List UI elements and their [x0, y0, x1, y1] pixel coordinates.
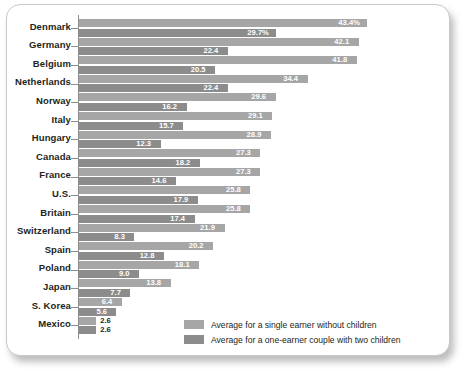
bar-value-label: 16.2 — [162, 103, 177, 111]
bar-value-label: 29.7% — [247, 29, 269, 37]
bar — [79, 205, 250, 213]
axis-tick — [71, 84, 79, 85]
legend-item: Average for a single earner without chil… — [184, 318, 444, 331]
axis-tick — [71, 28, 79, 29]
bar-value-label: 12.8 — [140, 252, 155, 260]
category-label: Poland — [0, 262, 71, 273]
category-label: France — [0, 169, 71, 180]
bar — [79, 112, 272, 120]
category-label: Switzerland — [0, 225, 71, 236]
bar-value-label: 18.2 — [176, 159, 191, 167]
bar — [79, 93, 276, 101]
bar — [79, 38, 359, 46]
axis-tick — [71, 325, 79, 326]
bar — [79, 149, 260, 157]
bar-value-label: 41.8 — [332, 56, 347, 64]
bar-chart: Denmark43.4%29.7%Germany42.122.4Belgium4… — [7, 5, 451, 357]
category-label: Belgium — [0, 58, 71, 69]
category-label: Canada — [0, 151, 71, 162]
axis-tick — [71, 288, 79, 289]
category-label: Denmark — [0, 21, 71, 32]
axis-tick — [71, 251, 79, 252]
bar-value-label: 25.8 — [226, 205, 241, 213]
category-label: Norway — [0, 95, 71, 106]
bar-value-label: 20.5 — [191, 66, 206, 74]
bar-value-label: 43.4% — [338, 19, 360, 27]
category-label: U.S. — [0, 188, 71, 199]
bar — [79, 75, 308, 83]
bar — [79, 326, 96, 334]
bar-value-label: 17.9 — [174, 196, 189, 204]
bar — [79, 270, 139, 278]
axis-tick — [71, 307, 79, 308]
category-label: Netherlands — [0, 76, 71, 87]
axis-tick — [71, 270, 79, 271]
bar-value-label: 13.8 — [146, 279, 161, 287]
bar-value-label: 17.4 — [170, 215, 185, 223]
bar-value-label: 8.3 — [114, 233, 125, 241]
legend-label-one-earner-couple: Average for a one-earner couple with two… — [211, 335, 401, 345]
axis-tick — [71, 232, 79, 233]
bar — [79, 298, 122, 306]
bar-value-label: 15.7 — [159, 122, 174, 130]
chart-card: Denmark43.4%29.7%Germany42.122.4Belgium4… — [6, 4, 450, 356]
bar-value-label: 2.6 — [100, 326, 111, 334]
bar-value-label: 7.7 — [110, 289, 121, 297]
bar-value-label: 18.1 — [175, 261, 190, 269]
bar-value-label: 2.6 — [100, 317, 111, 325]
legend-swatch-single-earner — [184, 320, 204, 329]
legend-item: Average for a one-earner couple with two… — [184, 333, 444, 346]
bar-value-label: 29.6 — [251, 93, 266, 101]
category-label: S. Korea — [0, 300, 71, 311]
bar — [79, 289, 130, 297]
category-label: Japan — [0, 281, 71, 292]
bar-value-label: 22.4 — [203, 84, 218, 92]
bar-value-label: 20.2 — [189, 242, 204, 250]
category-label: Britain — [0, 207, 71, 218]
bar-value-label: 27.3 — [236, 149, 251, 157]
bar-value-label: 28.9 — [247, 131, 262, 139]
category-label: Germany — [0, 39, 71, 50]
category-label: Hungary — [0, 132, 71, 143]
axis-tick — [71, 158, 79, 159]
bar — [79, 317, 96, 325]
bar — [79, 168, 260, 176]
legend-label-single-earner: Average for a single earner without chil… — [211, 320, 377, 330]
bar-value-label: 14.6 — [152, 177, 167, 185]
category-label: Italy — [0, 114, 71, 125]
bar-value-label: 22.4 — [203, 47, 218, 55]
bar — [79, 19, 367, 27]
category-label: Mexico — [0, 318, 71, 329]
axis-tick — [71, 195, 79, 196]
bar — [79, 233, 134, 241]
axis-tick — [71, 121, 79, 122]
axis-tick — [71, 139, 79, 140]
axis-tick — [71, 65, 79, 66]
bar-value-label: 12.3 — [136, 140, 151, 148]
legend-swatch-one-earner-couple — [184, 335, 204, 344]
bar-value-label: 25.8 — [226, 186, 241, 194]
bar — [79, 186, 250, 194]
bar-value-label: 9.0 — [119, 270, 130, 278]
bar — [79, 56, 357, 64]
bar-value-label: 42.1 — [334, 38, 349, 46]
bar-value-label: 27.3 — [236, 168, 251, 176]
chart-legend: Average for a single earner without chil… — [184, 318, 444, 348]
axis-tick — [71, 46, 79, 47]
bar — [79, 131, 271, 139]
bar-value-label: 34.4 — [283, 75, 298, 83]
axis-tick — [71, 102, 79, 103]
category-label: Spain — [0, 244, 71, 255]
bar-value-label: 5.6 — [96, 308, 107, 316]
bar-value-label: 21.9 — [200, 224, 215, 232]
axis-tick — [71, 177, 79, 178]
bar-value-label: 6.4 — [102, 298, 113, 306]
bar-value-label: 29.1 — [248, 112, 263, 120]
axis-tick — [71, 214, 79, 215]
